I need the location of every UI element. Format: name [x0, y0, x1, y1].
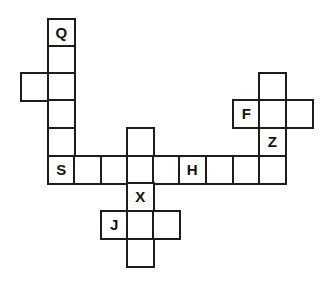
grid-cell-q[interactable]: Q — [47, 18, 76, 48]
grid-cell[interactable] — [126, 238, 155, 268]
crossword-board: Q S H X J F Z — [0, 0, 329, 283]
grid-cell[interactable] — [126, 155, 155, 185]
grid-cell[interactable] — [73, 155, 102, 185]
grid-cell-s[interactable]: S — [47, 155, 76, 185]
grid-cell[interactable] — [152, 155, 181, 185]
grid-cell[interactable] — [258, 155, 287, 185]
grid-cell[interactable] — [47, 127, 76, 157]
grid-cell[interactable] — [20, 72, 49, 102]
grid-cell[interactable] — [258, 72, 287, 102]
grid-cell-j[interactable]: J — [100, 210, 129, 240]
grid-cell[interactable] — [47, 99, 76, 129]
grid-cell[interactable] — [152, 210, 181, 240]
grid-cell[interactable] — [126, 210, 155, 240]
grid-cell-f[interactable]: F — [232, 99, 261, 129]
grid-cell-z[interactable]: Z — [258, 127, 287, 157]
grid-cell-h[interactable]: H — [178, 155, 207, 185]
grid-cell[interactable] — [205, 155, 234, 185]
grid-cell[interactable] — [47, 72, 76, 102]
grid-cell[interactable] — [100, 155, 129, 185]
grid-cell-x[interactable]: X — [126, 182, 155, 212]
grid-cell[interactable] — [47, 45, 76, 75]
grid-cell[interactable] — [232, 155, 261, 185]
grid-cell[interactable] — [258, 99, 287, 129]
grid-cell[interactable] — [285, 99, 314, 129]
grid-cell[interactable] — [126, 127, 155, 157]
